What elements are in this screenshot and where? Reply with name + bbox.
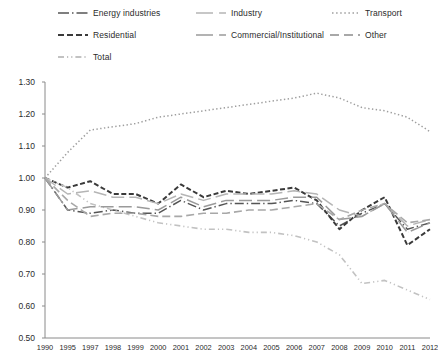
y-axis-tick-label: 1.30 xyxy=(5,78,35,87)
legend-label: Industry xyxy=(231,8,262,18)
legend-item-transport[interactable]: Transport xyxy=(330,8,402,18)
series-line-industry xyxy=(45,178,430,226)
line-swatch-dotted-icon xyxy=(330,8,360,18)
x-axis-tick-label: 2002 xyxy=(195,343,211,352)
x-axis-tick-label: 2003 xyxy=(218,343,234,352)
x-axis-tick-label: 2009 xyxy=(354,343,370,352)
x-axis-tick-label: 1997 xyxy=(82,343,98,352)
y-axis-tick-label: 0.70 xyxy=(5,270,35,279)
legend-label: Other xyxy=(365,30,387,40)
x-axis-tick-label: 2012 xyxy=(422,343,438,352)
legend-item-commercial-institutional[interactable]: Commercial/Institutional xyxy=(196,30,324,40)
x-axis-tick-label: 2001 xyxy=(173,343,189,352)
series-line-energy-industries xyxy=(45,178,430,229)
x-axis-tick-label: 1995 xyxy=(59,343,75,352)
y-axis-tick-label: 1.10 xyxy=(5,142,35,151)
legend-label: Total xyxy=(93,52,111,62)
x-axis-tick-label: 1999 xyxy=(127,343,143,352)
x-axis-tick-label: 2006 xyxy=(286,343,302,352)
legend-item-residential[interactable]: Residential xyxy=(58,30,136,40)
series-line-commercial-institutional xyxy=(45,178,430,232)
legend-item-energy-industries[interactable]: Energy industries xyxy=(58,8,160,18)
line-swatch-long-dash-dot-icon xyxy=(58,8,88,18)
series-line-total xyxy=(45,178,430,300)
x-axis-tick-label: 2008 xyxy=(331,343,347,352)
legend-item-total[interactable]: Total xyxy=(58,52,111,62)
series-line-transport xyxy=(45,93,430,178)
y-axis-tick-label: 0.60 xyxy=(5,302,35,311)
legend-label: Residential xyxy=(93,30,136,40)
x-axis-tick-label: 2010 xyxy=(376,343,392,352)
legend-label: Transport xyxy=(365,8,402,18)
series-line-other xyxy=(45,178,430,223)
y-axis-tick-label: 1.00 xyxy=(5,174,35,183)
chart-legend: Energy industries Industry Transport Res… xyxy=(0,0,434,68)
legend-item-other[interactable]: Other xyxy=(330,30,387,40)
plot-area: 0.500.600.700.800.901.001.101.201.30 199… xyxy=(0,68,434,360)
y-axis-tick-label: 0.80 xyxy=(5,238,35,247)
x-axis-tick-label: 1998 xyxy=(105,343,121,352)
x-axis-tick-label: 2007 xyxy=(309,343,325,352)
x-axis-tick-label: 2004 xyxy=(241,343,257,352)
line-swatch-dash-dot-dot-icon xyxy=(58,52,88,62)
line-swatch-solid-mid-icon xyxy=(196,30,226,40)
plot-svg xyxy=(0,68,434,360)
legend-label: Energy industries xyxy=(93,8,160,18)
x-axis-tick-label: 2005 xyxy=(263,343,279,352)
line-swatch-long-dash-icon xyxy=(330,30,360,40)
legend-label: Commercial/Institutional xyxy=(231,30,324,40)
x-axis-tick-label: 1990 xyxy=(37,343,53,352)
line-swatch-dashed-icon xyxy=(58,30,88,40)
y-axis-tick-label: 0.90 xyxy=(5,206,35,215)
x-axis-tick-label: 2000 xyxy=(150,343,166,352)
x-axis-tick-label: 2011 xyxy=(399,343,415,352)
y-axis-tick-label: 1.20 xyxy=(5,110,35,119)
y-axis-tick-label: 0.50 xyxy=(5,334,35,343)
line-swatch-solid-icon xyxy=(196,8,226,18)
legend-item-industry[interactable]: Industry xyxy=(196,8,262,18)
